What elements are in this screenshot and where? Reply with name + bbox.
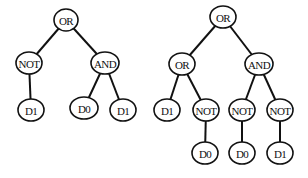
node-not: NOT bbox=[229, 99, 255, 121]
edges-layer bbox=[29, 17, 280, 153]
node-label: D1 bbox=[274, 148, 286, 160]
node-label: D1 bbox=[25, 105, 37, 117]
expression-tree-diagram: ORNOTANDD1D0D1ORORANDD1NOTNOTNOTD0D0D1 bbox=[0, 0, 308, 178]
node-d0: D0 bbox=[192, 142, 218, 164]
diagram-svg: ORNOTANDD1D0D1ORORANDD1NOTNOTNOTD0D0D1 bbox=[0, 0, 308, 178]
node-label: D0 bbox=[236, 148, 249, 160]
node-label: D0 bbox=[199, 148, 212, 160]
node-not: NOT bbox=[193, 99, 219, 121]
node-label: AND bbox=[94, 58, 117, 70]
right-tree bbox=[167, 17, 280, 153]
node-d0: D0 bbox=[70, 97, 98, 119]
node-label: OR bbox=[59, 15, 74, 27]
node-label: OR bbox=[216, 12, 231, 24]
node-label: D1 bbox=[161, 105, 173, 117]
node-d1: D1 bbox=[267, 142, 293, 164]
node-or: OR bbox=[169, 53, 195, 75]
node-d0: D0 bbox=[229, 142, 255, 164]
node-or: OR bbox=[210, 6, 236, 28]
node-not: NOT bbox=[16, 52, 42, 74]
node-label: AND bbox=[248, 59, 271, 71]
node-d1: D1 bbox=[154, 99, 180, 121]
node-label: NOT bbox=[270, 105, 292, 117]
node-label: NOT bbox=[19, 58, 41, 70]
node-label: D0 bbox=[78, 103, 91, 115]
node-d1: D1 bbox=[18, 99, 44, 121]
node-and: AND bbox=[91, 52, 119, 74]
node-label: NOT bbox=[196, 105, 218, 117]
node-and: AND bbox=[245, 53, 273, 75]
node-label: NOT bbox=[232, 105, 254, 117]
node-not: NOT bbox=[267, 99, 293, 121]
node-d1: D1 bbox=[110, 99, 136, 121]
node-label: OR bbox=[175, 59, 190, 71]
node-label: D1 bbox=[117, 105, 129, 117]
node-or: OR bbox=[54, 9, 78, 31]
